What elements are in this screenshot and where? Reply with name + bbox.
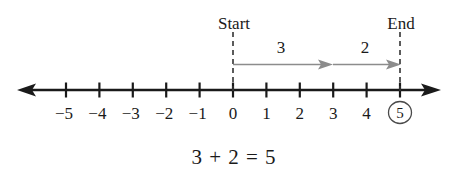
jump-2-label: 2 — [361, 39, 370, 56]
tick-label-neg4: −4 — [88, 105, 106, 122]
equation-caption: 3 + 2 = 5 — [191, 147, 276, 168]
tick-label-5-highlighted: 5 — [396, 106, 404, 121]
tick-label-neg3: −3 — [122, 105, 140, 122]
number-line-figure: Start End 3 2 −5 −4 −3 −2 −1 0 1 2 3 4 5… — [0, 0, 456, 174]
tick-label-0: 0 — [229, 105, 238, 122]
tick-label-2: 2 — [296, 105, 305, 122]
tick-label-3: 3 — [329, 105, 338, 122]
end-label: End — [387, 15, 414, 32]
tick-label-4: 4 — [362, 105, 371, 122]
tick-label-neg1: −1 — [189, 105, 207, 122]
jump-1-label: 3 — [277, 39, 286, 56]
tick-label-1: 1 — [262, 105, 271, 122]
start-label: Start — [218, 15, 250, 32]
tick-label-neg5: −5 — [55, 105, 73, 122]
tick-label-neg2: −2 — [155, 105, 173, 122]
